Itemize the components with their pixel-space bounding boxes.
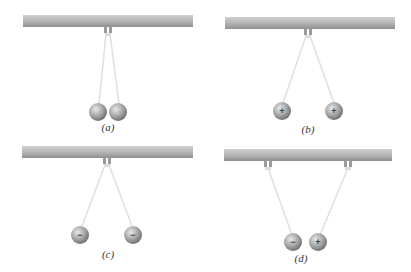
thread: [82, 165, 105, 226]
charge-sign: −: [130, 230, 135, 240]
rod: [225, 17, 395, 29]
thread: [310, 36, 334, 103]
thread: [109, 165, 132, 226]
thread: [320, 168, 348, 235]
charge-sign: +: [279, 106, 284, 116]
rod: [22, 146, 193, 158]
pith-ball: [109, 103, 127, 121]
thread: [99, 34, 106, 104]
panel-label: (b): [302, 123, 315, 136]
thread: [283, 36, 306, 103]
panel-b: + + (b): [225, 17, 395, 136]
thread: [268, 168, 292, 235]
charge-sign: +: [315, 237, 320, 247]
panel-label: (d): [295, 252, 308, 265]
rod: [23, 15, 193, 27]
panel-label: (c): [102, 248, 115, 261]
charge-sign: −: [77, 230, 82, 240]
charge-sign: +: [331, 106, 336, 116]
panel-label: (a): [102, 121, 115, 134]
thread: [110, 34, 119, 104]
charge-sign: −: [290, 237, 295, 247]
panel-d: − + (d): [224, 149, 392, 265]
panel-c: − − (c): [22, 146, 193, 261]
charged-pendulums-diagram: (a) + + (b) − − (c): [0, 0, 411, 272]
pith-ball: [89, 103, 107, 121]
rod: [224, 149, 392, 161]
panel-a: (a): [23, 15, 193, 134]
